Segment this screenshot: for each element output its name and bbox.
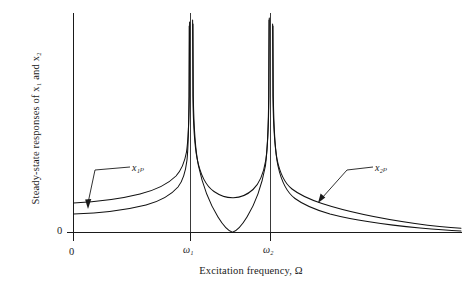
x-axis-tick-zero: 0 [69,247,74,258]
curve-x1p-branch-left [74,26,190,214]
curve-label-x2p: x₂ₚ [375,163,387,173]
x-axis-tick-omega2: ω₂ [263,245,274,255]
curve-x2p-branch-left [74,22,190,203]
x-axis-label: Excitation frequency, Ω [156,266,346,277]
curve-x2p-branch-right [273,24,461,228]
chart-figure: Steady-state responses of x₁ and x₂ Exci… [0,0,476,286]
y-axis-tick-zero: 0 [57,226,62,237]
curve-x1p-branch-mid [193,20,269,232]
chart-plot-area [0,0,476,286]
leader-line-x2p [322,167,373,198]
curve-x2p-branch-mid [193,18,270,198]
y-axis-label: Steady-state responses of x₁ and x₂ [31,13,42,243]
x-axis-tick-omega1: ω₁ [183,245,194,255]
leader-arrowhead-x2p [318,193,325,203]
leader-arrowhead-x1p [85,199,91,209]
curve-x1p-branch-right [273,26,461,231]
curve-label-x1p: x₁ₚ [132,163,144,173]
